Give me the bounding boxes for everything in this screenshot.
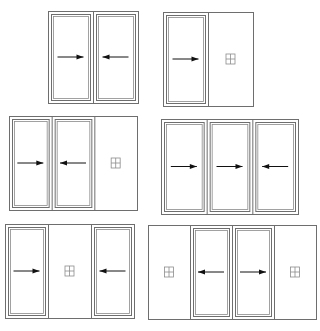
door-configuration-6 <box>149 226 317 320</box>
door-configuration-4 <box>162 120 299 215</box>
door-configuration-1 <box>49 12 139 104</box>
door-configuration-3 <box>10 117 138 211</box>
door-configurations-diagram <box>0 0 320 331</box>
door-configuration-2 <box>164 13 254 107</box>
door-configuration-5 <box>6 225 135 319</box>
